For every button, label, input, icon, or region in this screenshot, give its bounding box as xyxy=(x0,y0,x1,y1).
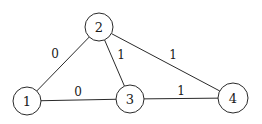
edge-weight-label-2-4: 1 xyxy=(169,48,177,62)
edge-weight-label-2-3: 1 xyxy=(117,48,125,62)
node-label: 1 xyxy=(23,94,31,109)
node-1: 1 xyxy=(13,87,41,115)
graph-diagram: 01101 1234 xyxy=(0,0,262,124)
edge-3-4 xyxy=(144,98,218,99)
edge-weight-label-1-3: 0 xyxy=(74,85,82,99)
edge-2-3 xyxy=(105,40,125,86)
edge-weight-label-3-4: 1 xyxy=(177,84,185,98)
node-3: 3 xyxy=(116,85,144,113)
edge-1-3 xyxy=(41,99,116,100)
edge-1-2 xyxy=(37,37,89,91)
nodes-layer: 1234 xyxy=(13,13,248,115)
node-4: 4 xyxy=(218,83,248,113)
edge-weight-label-1-2: 0 xyxy=(51,47,59,61)
node-label: 3 xyxy=(126,92,134,107)
node-2: 2 xyxy=(85,13,113,41)
node-label: 4 xyxy=(229,91,237,106)
node-label: 2 xyxy=(95,20,103,35)
edge-2-4 xyxy=(111,34,219,91)
